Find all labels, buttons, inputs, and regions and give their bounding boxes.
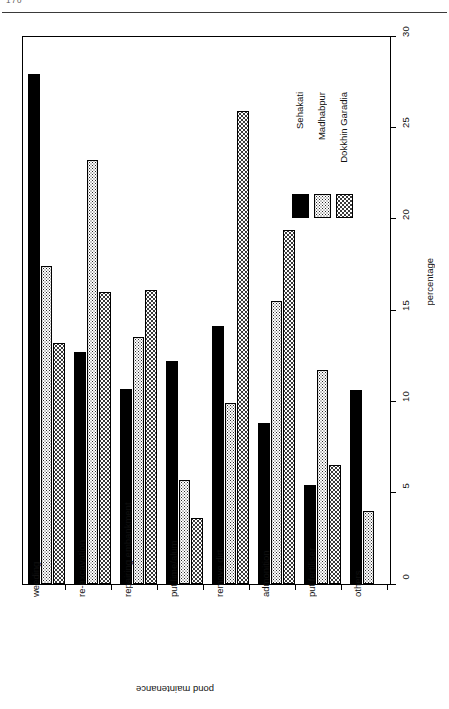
category-label: others bbox=[352, 571, 363, 597]
category-tick bbox=[111, 584, 112, 590]
bar bbox=[363, 511, 375, 584]
category-tick bbox=[65, 584, 66, 590]
value-axis-title: percentage bbox=[424, 258, 435, 306]
legend-label: Madhabpur bbox=[316, 92, 327, 140]
category-tick bbox=[295, 584, 296, 590]
value-tick bbox=[390, 492, 396, 493]
category-tick bbox=[249, 584, 250, 590]
value-tick-label: 15 bbox=[400, 300, 411, 311]
category-label: put lime/alum bbox=[168, 541, 179, 598]
legend-label: Sehakati bbox=[294, 92, 305, 129]
legend-label: Dokkhin Garadia bbox=[338, 92, 349, 163]
bar bbox=[350, 390, 362, 584]
bar bbox=[271, 301, 283, 584]
bar bbox=[145, 290, 157, 584]
legend-swatch bbox=[314, 194, 331, 218]
bar bbox=[317, 370, 329, 584]
legend-swatch bbox=[336, 194, 353, 218]
category-tick bbox=[157, 584, 158, 590]
bar bbox=[191, 518, 203, 584]
bar bbox=[87, 160, 99, 584]
bar bbox=[329, 465, 341, 584]
category-tick bbox=[387, 584, 388, 590]
value-tick-label: 0 bbox=[400, 574, 411, 579]
value-tick-label: 25 bbox=[400, 117, 411, 128]
bars-layer bbox=[22, 36, 390, 584]
category-label: repairing embankment bbox=[122, 502, 133, 597]
bar bbox=[28, 74, 40, 584]
value-tick bbox=[390, 310, 396, 311]
category-label: re-excavation bbox=[76, 540, 87, 597]
bar bbox=[212, 326, 224, 584]
value-tick-label: 5 bbox=[400, 483, 411, 488]
page-header: 170 bbox=[0, 0, 449, 24]
page-number: 170 bbox=[6, 0, 22, 5]
bar bbox=[41, 266, 53, 584]
bar bbox=[237, 111, 249, 584]
bar-chart-figure: 051015202530 percentage weedingre-excava… bbox=[0, 22, 449, 709]
bar bbox=[99, 292, 111, 584]
value-tick-label: 20 bbox=[400, 209, 411, 220]
category-axis-title: pond maintenance bbox=[95, 684, 255, 695]
value-tick bbox=[390, 36, 396, 37]
bar bbox=[225, 403, 237, 584]
category-label: remove dirt bbox=[214, 549, 225, 597]
header-rule bbox=[2, 12, 447, 13]
bar bbox=[53, 343, 65, 584]
category-tick bbox=[341, 584, 342, 590]
category-tick bbox=[203, 584, 204, 590]
category-label: put fertiliser bbox=[306, 548, 317, 597]
bar bbox=[179, 480, 191, 584]
category-label: admonition bbox=[260, 551, 271, 597]
bar bbox=[283, 230, 295, 584]
value-tick-label: 10 bbox=[400, 391, 411, 402]
bar bbox=[133, 337, 145, 584]
value-tick bbox=[390, 218, 396, 219]
value-tick bbox=[390, 401, 396, 402]
value-tick-label: 30 bbox=[400, 26, 411, 37]
legend-swatch bbox=[292, 194, 309, 218]
value-tick bbox=[390, 127, 396, 128]
category-label: weeding bbox=[30, 562, 41, 597]
